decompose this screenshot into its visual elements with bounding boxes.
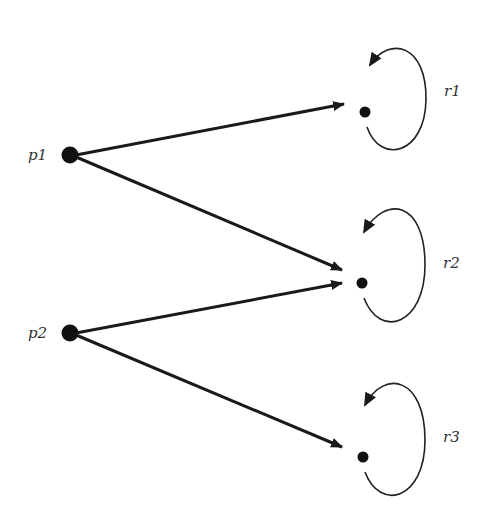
node-r2 <box>357 278 368 289</box>
node-r1 <box>360 107 371 118</box>
edge-p2-r3 <box>76 335 342 447</box>
self-loop-r2 <box>364 209 425 322</box>
node-r3 <box>358 452 369 463</box>
edge-p1-r1 <box>76 104 344 155</box>
label-r1: r1 <box>444 82 461 100</box>
node-p2 <box>62 325 79 342</box>
self-loop-r3 <box>365 383 425 495</box>
label-p2: p2 <box>28 324 47 342</box>
label-p1: p1 <box>28 146 47 164</box>
edge-p2-r2 <box>76 283 342 333</box>
graph-canvas: p1 p2 r1 r2 r3 <box>0 0 495 528</box>
node-p1 <box>62 147 79 164</box>
label-r3: r3 <box>443 428 460 446</box>
label-r2: r2 <box>443 254 460 272</box>
edge-p1-r2 <box>76 157 342 270</box>
self-loop-r1 <box>367 48 426 149</box>
